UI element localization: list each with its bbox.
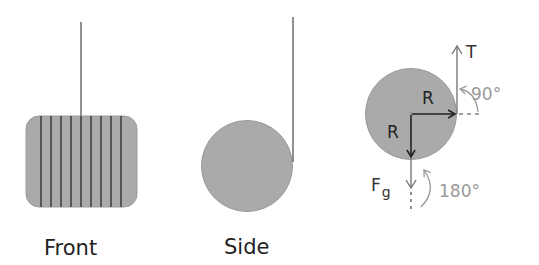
side-spool-disc: [202, 121, 293, 212]
radius-label-right: R: [422, 88, 434, 108]
radius-label-down: R: [387, 122, 399, 142]
angle-label-180: 180°: [439, 181, 480, 201]
side-label: Side: [224, 235, 269, 259]
tension-label: T: [465, 42, 477, 62]
front-view: Front: [26, 22, 137, 260]
front-label: Front: [44, 236, 97, 260]
gravity-label-subscript: g: [382, 184, 391, 200]
angle-arc-180: [421, 170, 430, 207]
gravity-label: Fg: [371, 175, 391, 200]
side-view: Side: [202, 17, 294, 259]
angle-label-90: 90°: [471, 84, 501, 104]
force-diagram: T R 90° R Fg 180°: [366, 42, 502, 212]
yoyo-torque-diagram: Front Side T R 90° R Fg 180°: [0, 0, 539, 265]
gravity-label-main: F: [371, 175, 381, 195]
